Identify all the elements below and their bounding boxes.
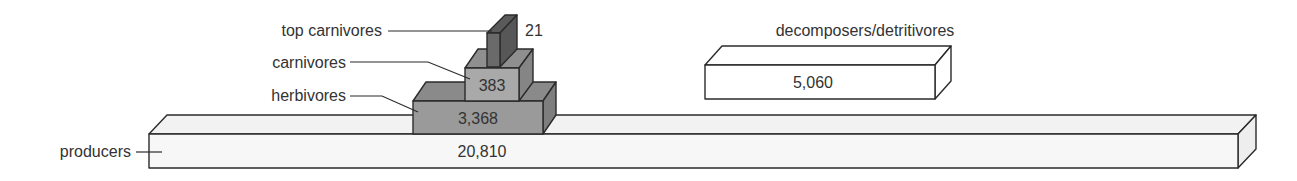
decomposers-top-face [705,46,951,65]
top-carnivores-label: top carnivores [282,22,383,39]
decomposers-value: 5,060 [793,74,833,91]
carnivores-leader-line [350,62,470,79]
producers-value: 20,810 [458,143,507,160]
producers-label: producers [60,143,131,160]
producers-block: 20,810 [149,115,1256,168]
producers-front-face [149,134,1238,168]
top-carnivores-value: 21 [525,22,543,39]
herbivores-value: 3,368 [458,110,498,127]
producers-top-face [149,115,1256,134]
carnivores-value: 383 [479,77,506,94]
herbivores-label: herbivores [271,87,346,104]
decomposers-block: 5,060 decomposers/detritivores [705,22,954,99]
herbivores-leader-line [350,96,418,112]
energy-pyramid-diagram: 20,810 3,368 383 21 5,060 decomposers/de… [0,0,1297,181]
top-carnivores-front-face [487,33,500,67]
carnivores-label: carnivores [272,54,346,71]
decomposers-label: decomposers/detritivores [776,22,955,39]
